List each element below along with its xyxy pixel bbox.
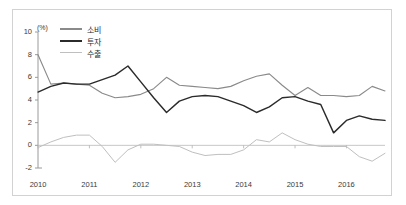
chart-frame: (%) 1086420-2 20102011201220132014201520… xyxy=(12,9,392,196)
chart-figure: (%) 1086420-2 20102011201220132014201520… xyxy=(0,0,406,205)
line-chart-plot xyxy=(13,10,393,197)
